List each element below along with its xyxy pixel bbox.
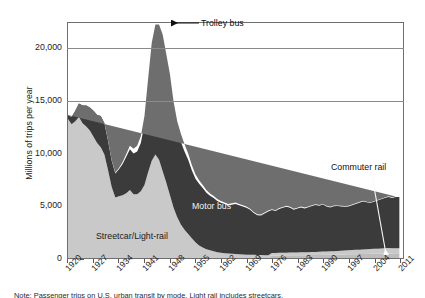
gridline-15000 bbox=[67, 101, 404, 102]
annotation-label-commuter-rail: Commuter rail bbox=[331, 162, 386, 172]
y-tick-label-20000: 20,000 bbox=[16, 43, 62, 52]
transit-trips-area-chart: Millions of trips per year 05,00010,0001… bbox=[0, 0, 425, 298]
y-axis-ticks: 05,00010,00015,00020,000 bbox=[14, 0, 62, 298]
plot-area bbox=[67, 22, 404, 259]
stacked-area-paths bbox=[68, 23, 403, 258]
y-tick-label-10000: 10,000 bbox=[16, 149, 62, 158]
y-tick-label-15000: 15,000 bbox=[16, 96, 62, 105]
y-tick-label-0: 0 bbox=[16, 254, 62, 263]
series-label-streetcar: Streetcar/Light-rail bbox=[96, 231, 168, 241]
series-label-motor-bus: Motor bus bbox=[192, 201, 231, 211]
figure-caption: Note: Passenger trips on U.S. urban tran… bbox=[14, 291, 414, 298]
y-tick-label-5000: 5,000 bbox=[16, 201, 62, 210]
annotation-label-trolley-bus: Trolley bus bbox=[201, 18, 244, 28]
gridline-20000 bbox=[67, 48, 404, 49]
